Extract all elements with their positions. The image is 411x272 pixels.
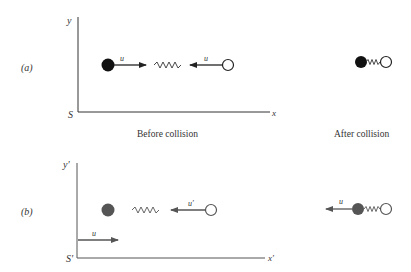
after-collision-a	[355, 56, 392, 68]
panel-a: (a) y x S u u Before collision After col…	[21, 15, 392, 139]
collision-diagram: (a) y x S u u Before collision After col…	[0, 0, 411, 272]
x-prime-axis-label: x′	[267, 253, 275, 263]
y-prime-axis-label: y′	[62, 159, 70, 170]
panel-b: (b) y′ x′ S′ u u′ u	[21, 159, 392, 264]
frame-velocity-label: u	[92, 229, 96, 238]
velocity-label-after: u	[339, 197, 343, 206]
open-ball	[223, 60, 234, 71]
spring-b	[132, 207, 159, 213]
filled-ball	[102, 59, 115, 72]
caption-before-collision: Before collision	[137, 129, 198, 139]
panel-a-label: (a)	[21, 62, 33, 74]
gray-ball	[102, 204, 115, 217]
velocity-label-right: u	[204, 54, 208, 63]
gray-ball-after	[352, 203, 364, 215]
origin-label: S	[68, 109, 73, 120]
compressed-spring	[366, 60, 380, 65]
panel-b-label: (b)	[21, 206, 33, 218]
velocity-label-u-prime: u′	[188, 199, 194, 208]
y-axis-label: y	[66, 15, 72, 26]
spring	[154, 62, 181, 68]
origin-prime-label: S′	[66, 253, 74, 264]
velocity-label-left: u	[120, 54, 124, 63]
open-ball-after	[381, 57, 392, 68]
compressed-spring-b	[364, 207, 380, 212]
caption-after-collision: After collision	[334, 129, 389, 139]
x-axis-label: x	[271, 108, 276, 118]
open-ball-b	[206, 205, 217, 216]
after-collision-b: u	[326, 197, 392, 215]
filled-ball-after	[355, 56, 367, 68]
open-ball-after-b	[381, 204, 392, 215]
